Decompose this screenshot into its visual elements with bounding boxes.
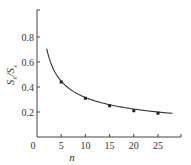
x-axis: 0510152025 bbox=[31, 134, 182, 151]
svg-text:Sx̄/Sx: Sx̄/Sx bbox=[4, 64, 19, 85]
y-tick-label: 0.6 bbox=[22, 57, 35, 68]
x-tick-label: 20 bbox=[129, 140, 139, 151]
y-axis: 0.20.40.60.8 bbox=[22, 10, 41, 137]
x-tick-label: 5 bbox=[59, 140, 64, 151]
data-point-marker bbox=[157, 112, 160, 115]
y-axis-label: Sx̄/Sx bbox=[4, 64, 19, 85]
x-tick-label: 10 bbox=[80, 140, 90, 151]
y-tick-label: 0.2 bbox=[22, 107, 35, 118]
data-point-marker bbox=[132, 109, 135, 112]
x-axis-label: n bbox=[69, 151, 75, 163]
x-tick-label: 0 bbox=[31, 140, 36, 151]
y-tick-label: 0.8 bbox=[22, 32, 35, 43]
x-tick-label: 25 bbox=[153, 140, 163, 151]
data-markers bbox=[60, 81, 160, 115]
data-point-marker bbox=[84, 97, 87, 100]
y-tick-label: 0.4 bbox=[22, 82, 35, 93]
x-tick-label: 15 bbox=[105, 140, 115, 151]
chart: 0.20.40.60.8 0510152025 n Sx̄/Sx bbox=[0, 0, 191, 165]
data-point-marker bbox=[60, 81, 63, 84]
data-curve bbox=[47, 49, 173, 114]
data-point-marker bbox=[108, 104, 111, 107]
